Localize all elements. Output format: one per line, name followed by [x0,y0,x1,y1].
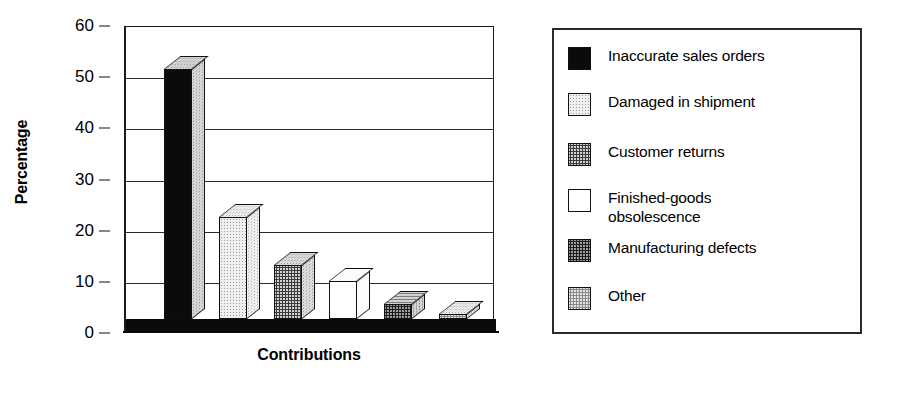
y-axis-tick-labels: 60 50 40 30 20 10 0 [58,26,110,333]
bar-side-face-2 [247,207,260,319]
legend-item-other: Other [568,286,646,310]
legend-item-customer-returns: Customer returns [568,142,725,166]
legend-swatch-icon-4 [568,189,591,212]
legend-item-damaged-in-shipment: Damaged in shipment [568,92,755,116]
legend-swatch-icon-3 [568,143,591,166]
bar-manufacturing-defects [384,304,412,319]
y-tick-mark-20 [99,230,110,231]
legend-swatch-icon-1 [568,47,591,70]
legend-label-3: Customer returns [608,142,725,161]
bar-front-face-4 [329,281,357,319]
legend-label-6: Other [608,286,646,305]
bar-front-face-1 [164,69,192,319]
y-tick-label-20: 20 [75,221,94,241]
bar-front-face-5 [384,304,412,319]
bar-side-face-4 [357,271,370,319]
y-tick-label-40: 40 [75,118,94,138]
bar-customer-returns [274,265,302,319]
chart-legend: Inaccurate sales orders Damaged in shipm… [552,28,862,334]
y-tick-label-10: 10 [75,272,94,292]
legend-swatch-icon-2 [568,93,591,116]
legend-label-4: Finished-goods obsolescence [608,188,711,226]
y-tick-mark-0 [99,333,110,334]
bar-front-face-6 [439,314,467,319]
y-tick-label-0: 0 [85,323,94,343]
legend-item-inaccurate-sales-orders: Inaccurate sales orders [568,46,765,70]
bar-other [439,314,467,319]
bar-chart-figure: Percentage 60 50 40 30 20 10 0 [0,0,897,396]
y-axis-title: Percentage [13,92,31,232]
y-tick-label-30: 30 [75,170,94,190]
legend-swatch-icon-5 [568,239,591,262]
legend-swatch-icon-6 [568,287,591,310]
y-tick-label-60: 60 [75,16,94,36]
bar-finished-goods-obsolescence [329,281,357,319]
y-tick-mark-50 [99,77,110,78]
chart-floor-front-edge [123,331,499,333]
y-tick-mark-60 [99,26,110,27]
y-tick-mark-40 [99,128,110,129]
bar-inaccurate-sales-orders [164,69,192,319]
plot-area [124,26,494,333]
legend-item-finished-goods-obsolescence: Finished-goods obsolescence [568,188,711,226]
legend-label-5: Manufacturing defects [608,238,756,257]
legend-item-manufacturing-defects: Manufacturing defects [568,238,756,262]
bar-front-face-3 [274,265,302,319]
x-axis-title: Contributions [124,346,494,364]
y-tick-label-50: 50 [75,67,94,87]
bar-damaged-in-shipment [219,217,247,319]
bar-front-face-2 [219,217,247,319]
bar-side-face-1 [192,59,205,319]
y-tick-mark-10 [99,281,110,282]
legend-label-2: Damaged in shipment [608,92,755,111]
y-tick-mark-30 [99,179,110,180]
bar-side-face-3 [302,255,315,319]
legend-label-1: Inaccurate sales orders [608,46,765,65]
